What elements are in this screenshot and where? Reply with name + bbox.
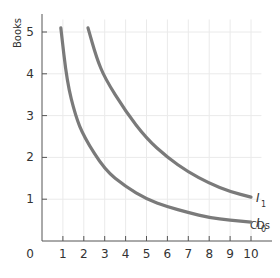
- curve-label-sub: 0: [261, 225, 266, 234]
- curve-label-I1: I: [256, 191, 260, 205]
- y-tick-label: 4: [26, 67, 34, 81]
- chart-canvas: 12345678910123450CDsBooksI0I1: [0, 0, 280, 278]
- x-tick-label: 1: [59, 247, 67, 261]
- origin-label: 0: [26, 247, 34, 261]
- x-tick-label: 4: [122, 247, 130, 261]
- indifference-chart: 12345678910123450CDsBooksI0I1: [0, 0, 280, 278]
- x-tick-label: 10: [243, 247, 258, 261]
- y-axis-label: Books: [12, 18, 23, 48]
- curve-I1: [88, 28, 251, 197]
- x-tick-label: 6: [164, 247, 172, 261]
- x-tick-label: 2: [80, 247, 88, 261]
- curve-label-sub: 1: [261, 200, 266, 209]
- x-tick-label: 7: [184, 247, 192, 261]
- curve-I0: [61, 28, 251, 222]
- y-tick-label: 1: [26, 192, 34, 206]
- y-tick-label: 3: [26, 109, 34, 123]
- x-tick-label: 5: [143, 247, 151, 261]
- y-tick-label: 5: [26, 25, 34, 39]
- curve-label-I0: I: [256, 216, 260, 230]
- x-tick-label: 8: [205, 247, 213, 261]
- x-tick-label: 3: [101, 247, 109, 261]
- y-tick-label: 2: [26, 150, 34, 164]
- x-tick-label: 9: [226, 247, 234, 261]
